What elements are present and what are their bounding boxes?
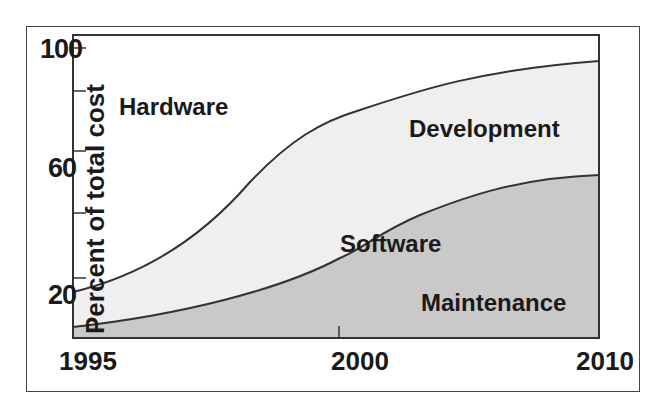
- x-tick-label-2000: 2000: [331, 346, 389, 376]
- x-tick-label-2010: 2010: [576, 346, 634, 376]
- y-tick-label-100: 100: [40, 34, 82, 64]
- region-label-maintenance: Maintenance: [421, 289, 566, 316]
- region-label-development: Development: [409, 115, 560, 142]
- y-tick-label-60: 60: [48, 153, 76, 183]
- y-tick-label-20: 20: [48, 280, 76, 310]
- region-label-software: Software: [340, 230, 441, 257]
- stacked-area-chart: 100 60 20 Percent of total cost 1995 200…: [0, 0, 661, 408]
- region-label-hardware: Hardware: [119, 93, 228, 120]
- x-tick-label-1995: 1995: [59, 346, 117, 376]
- y-axis-title: Percent of total cost: [80, 84, 110, 334]
